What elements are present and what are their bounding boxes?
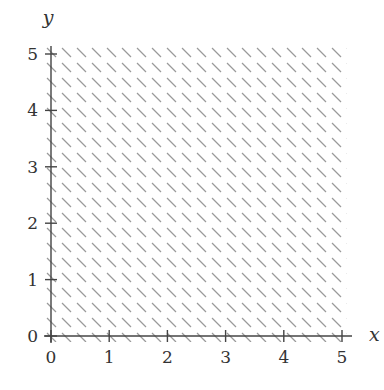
shaded-region	[44, 46, 347, 342]
x-tick-label: 4	[278, 347, 289, 367]
y-tick-label: 5	[27, 44, 38, 64]
x-tick-label: 3	[220, 347, 231, 367]
x-tick-label: 1	[104, 347, 115, 367]
y-tick-label: 1	[27, 270, 38, 290]
y-tick-label: 3	[27, 157, 38, 177]
x-tick-label: 2	[162, 347, 173, 367]
y-tick-label: 4	[27, 100, 38, 120]
x-axis-label: x	[369, 323, 380, 345]
y-tick-label: 0	[27, 326, 38, 346]
y-axis-label: y	[42, 6, 54, 28]
y-tick-label: 2	[27, 213, 38, 233]
x-tick-label: 5	[337, 347, 348, 367]
x-tick-label: 0	[46, 347, 57, 367]
chart: 012345012345xy	[0, 0, 384, 390]
